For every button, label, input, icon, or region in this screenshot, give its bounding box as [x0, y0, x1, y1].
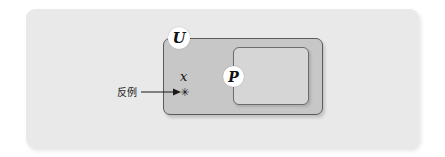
set-diagram-figure: U P x ✳ 反例 — [0, 0, 445, 157]
counterexample-annotation-label: 反例 — [117, 88, 137, 98]
set-subset-label-badge: P — [223, 66, 244, 87]
set-universe-label-badge: U — [168, 27, 190, 49]
element-label-x: x — [180, 70, 187, 83]
set-subset-rectangle — [233, 47, 309, 105]
counterexample-arrow-icon — [141, 86, 183, 98]
